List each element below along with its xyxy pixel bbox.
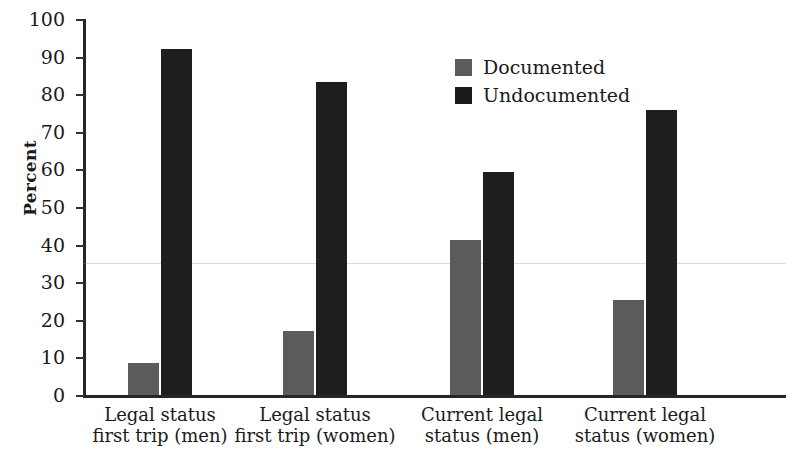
- undocumented-swatch: [455, 87, 472, 104]
- x-axis-label-line: Current legal: [535, 404, 755, 425]
- y-axis-tick: 40: [76, 245, 84, 247]
- bar-undocumented: [646, 110, 677, 395]
- y-axis-tick-label: 0: [53, 386, 65, 405]
- x-axis-line: [83, 395, 786, 398]
- y-axis-tick-label: 20: [41, 310, 65, 329]
- y-axis-title: Percent: [20, 118, 40, 238]
- y-axis-tick-label: 90: [41, 47, 65, 66]
- x-axis-label: Current legalstatus (women): [535, 404, 755, 446]
- legend-item: Documented: [455, 53, 630, 81]
- x-axis-label-line: status (women): [535, 425, 755, 446]
- bar-documented: [450, 240, 481, 395]
- bar-documented: [283, 331, 314, 395]
- bar-chart: Percent 1009080706050403020100 Legal sta…: [0, 0, 793, 452]
- y-axis-tick: 80: [76, 94, 84, 96]
- y-axis-tick-label: 70: [41, 122, 65, 141]
- legend-item: Undocumented: [455, 81, 630, 109]
- y-axis-tick: 60: [76, 169, 84, 171]
- bar-documented: [613, 300, 644, 395]
- y-axis-tick: 50: [76, 207, 84, 209]
- y-axis-tick: 0: [76, 395, 84, 397]
- y-axis-tick-label: 80: [41, 85, 65, 104]
- bar-documented: [128, 363, 159, 395]
- y-axis-tick: 70: [76, 132, 84, 134]
- bar-undocumented: [161, 49, 192, 395]
- y-axis-tick-label: 10: [41, 348, 65, 367]
- y-axis-tick-label: 60: [41, 160, 65, 179]
- y-axis-tick: 90: [76, 57, 84, 59]
- bar-undocumented: [483, 172, 514, 395]
- y-axis-tick: 10: [76, 357, 84, 359]
- legend-label: Undocumented: [483, 86, 630, 105]
- bar-undocumented: [316, 82, 347, 395]
- y-axis-tick-label: 50: [41, 198, 65, 217]
- y-axis-tick-label: 100: [29, 10, 65, 29]
- y-axis-tick: 20: [76, 320, 84, 322]
- documented-swatch: [455, 59, 472, 76]
- y-axis-tick-label: 40: [41, 235, 65, 254]
- chart-legend: DocumentedUndocumented: [455, 53, 630, 109]
- y-axis-tick-label: 30: [41, 273, 65, 292]
- plot-area: 1009080706050403020100: [83, 19, 786, 398]
- y-axis-tick: 100: [76, 19, 84, 21]
- y-axis-tick: 30: [76, 282, 84, 284]
- legend-label: Documented: [483, 58, 605, 77]
